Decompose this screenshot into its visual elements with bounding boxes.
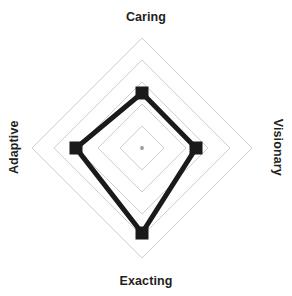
axis-label-caring: Caring xyxy=(0,11,292,24)
center-dot xyxy=(140,146,144,150)
data-marker-caring xyxy=(136,87,149,100)
data-polygon xyxy=(76,93,196,233)
radar-chart: Caring Visionary Exacting Adaptive xyxy=(0,0,292,296)
data-polygon-group xyxy=(76,93,196,233)
axis-label-exacting: Exacting xyxy=(0,275,292,288)
data-marker-exacting xyxy=(136,227,149,240)
center-dot-group xyxy=(140,146,144,150)
data-marker-adaptive xyxy=(70,142,83,155)
axis-label-caring-text: Caring xyxy=(126,10,166,24)
axis-label-exacting-text: Exacting xyxy=(120,274,173,288)
axis-label-visionary-text: Visionary xyxy=(272,119,285,176)
radar-chart-canvas xyxy=(0,0,292,296)
axis-label-adaptive-text: Adaptive xyxy=(8,120,21,174)
data-marker-visionary xyxy=(190,142,203,155)
